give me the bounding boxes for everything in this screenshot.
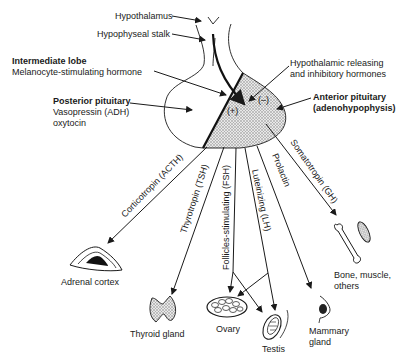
anterior-lobe: [203, 73, 286, 148]
posterior-pituitary-title: Posterior pituitary: [53, 96, 131, 106]
releasing-hormones-line2: and inhibitory hormones: [290, 69, 387, 79]
pituitary-diagram: (+) (–) Hypothalamus Hypophyseal stalk I…: [0, 0, 404, 360]
testis-icon: [259, 310, 288, 342]
hypothalamus-pointer: [172, 16, 201, 21]
anterior-pointer: [277, 98, 311, 109]
posterior-lobe-outline: [164, 25, 204, 148]
intermediate-lobe-title: Intermediate lobe: [12, 56, 87, 66]
posterior-hormone-1: Vasopressin (ADH): [53, 107, 129, 117]
adrenal-cortex-label: Adrenal cortex: [61, 277, 120, 287]
stalk-label: Hypophyseal stalk: [97, 29, 171, 39]
pituitary-gland: (+) (–): [164, 17, 285, 148]
gh-label: Somatotropin (GH): [288, 137, 340, 205]
lh-to-testis: [268, 273, 275, 310]
releasing-hormones-line1: Hypothalamic releasing: [290, 58, 384, 68]
mammary-gland-label-1: Mammary: [309, 326, 349, 336]
fsh-label: Follicles-stimulating (FSH): [221, 165, 231, 270]
mammary-gland-label-2: gland: [309, 337, 331, 347]
bone-muscle-label-2: others: [334, 281, 360, 291]
stalk-right-outline: [229, 24, 243, 73]
acth-label: Corticotropin (ACTH): [119, 152, 185, 219]
intermediate-lobe-hormone: Melanocyte-stimulating hormone: [12, 67, 142, 77]
mammary-gland-icon: [319, 296, 330, 323]
bone-muscle-label-1: Bone, muscle,: [334, 270, 391, 280]
stimulate-sign: (+): [227, 106, 238, 116]
hypothalamus-label: Hypothalamus: [115, 11, 173, 21]
prolactin-label: Prolactin: [270, 152, 292, 188]
fsh-arrow: [233, 148, 236, 272]
posterior-pointer: [130, 103, 192, 110]
thyroid-gland-icon: [150, 296, 176, 322]
fsh-branches: [230, 272, 233, 292]
adrenal-cortex-icon: [70, 247, 122, 271]
bone-muscle-icon: [334, 220, 372, 263]
testis-label: Testis: [262, 344, 286, 354]
posterior-hormone-2: oxytocin: [53, 118, 86, 128]
thyroid-gland-label: Thyroid gland: [130, 329, 185, 339]
intermediate-pointer: [154, 71, 226, 95]
ovary-icon: [207, 297, 247, 317]
inhibit-sign: (–): [258, 95, 269, 105]
anterior-pituitary-sub: (adenohypophysis): [313, 103, 396, 113]
hypothalamus-notch: [208, 17, 219, 24]
ovary-label: Ovary: [216, 324, 241, 334]
anterior-pituitary-title: Anterior pituitary: [313, 92, 386, 102]
